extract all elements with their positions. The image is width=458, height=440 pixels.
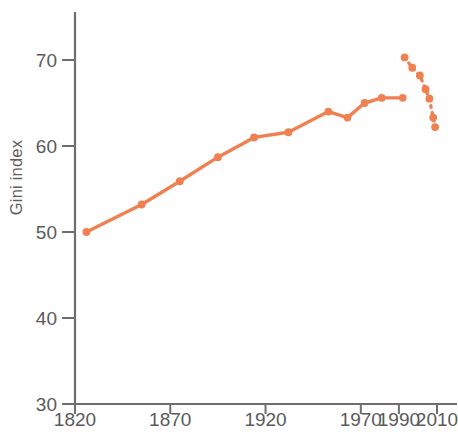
x-axis-tick-label: 1920 — [244, 410, 286, 429]
x-axis-tick-label: 1820 — [54, 410, 96, 429]
data-point — [250, 134, 258, 142]
data-point — [361, 99, 369, 107]
data-point — [399, 94, 407, 102]
data-point — [401, 54, 409, 62]
x-axis-tick-label: 1990 — [378, 410, 420, 429]
data-point — [176, 177, 184, 185]
data-point — [422, 85, 430, 93]
series-layer — [83, 54, 439, 236]
data-point — [408, 64, 416, 72]
series-line-0 — [86, 98, 402, 232]
data-point — [425, 95, 433, 103]
data-point — [378, 94, 386, 102]
data-point — [344, 114, 352, 122]
data-point — [431, 123, 439, 131]
x-axis-tick-label: 1870 — [149, 410, 191, 429]
data-point — [325, 108, 333, 116]
data-point — [429, 114, 437, 122]
x-axis-tick-label: 2010 — [416, 410, 458, 429]
data-point — [416, 72, 424, 80]
data-point — [83, 228, 91, 236]
data-point — [284, 128, 292, 136]
x-axis-tick-label: 1970 — [340, 410, 382, 429]
data-point — [214, 153, 222, 161]
data-point — [138, 201, 146, 209]
